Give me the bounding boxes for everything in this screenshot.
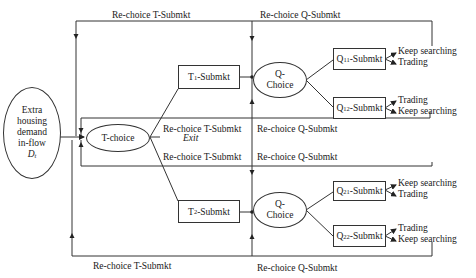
label-inner-bottom-rechoice-t: Re-choice T-Submkt — [163, 152, 241, 163]
q22-outcome-trading: Trading — [398, 223, 428, 234]
q-choice-node-2: Q- Choice — [253, 192, 307, 228]
source-line-1: Extra — [22, 105, 43, 116]
source-line-4: in-flow — [18, 138, 46, 149]
demand-inflow-node: Extra housing demand in-flow Dt — [3, 87, 61, 179]
t1-submarket-box: T1-Submkt — [178, 65, 240, 89]
q11-outcome-trading: Trading — [398, 57, 428, 68]
source-line-3: demand — [17, 127, 47, 138]
q22-outcome-keep-searching: Keep searching — [398, 234, 457, 245]
source-symbol: Dt — [28, 149, 37, 161]
t2-submarket-box: T2-Submkt — [178, 200, 240, 223]
label-inner-bottom-rechoice-q: Re-choice Q-Submkt — [257, 152, 337, 163]
t-choice-node: T-choice — [86, 124, 150, 152]
q12-outcome-trading: Trading — [398, 95, 428, 106]
q21-outcome-keep-searching: Keep searching — [398, 178, 457, 189]
source-line-2: housing — [17, 116, 47, 127]
q22-submarket-box: Q22-Submkt — [333, 225, 386, 247]
q11-outcome-keep-searching: Keep searching — [398, 46, 457, 57]
label-bottom-rechoice-q: Re-choice Q-Submkt — [257, 263, 337, 274]
q12-submarket-box: Q12-Submkt — [333, 97, 386, 119]
label-inner-top-rechoice-t: Re-choice T-Submkt — [163, 124, 241, 135]
label-bottom-rechoice-t: Re-choice T-Submkt — [93, 261, 171, 272]
q11-submarket-box: Q11-Submkt — [333, 48, 386, 70]
t-choice-label: T-choice — [102, 133, 135, 144]
label-top-rechoice-t: Re-choice T-Submkt — [112, 10, 190, 21]
q-choice-node-1: Q- Choice — [253, 62, 307, 98]
q21-submarket-box: Q21-Submkt — [333, 181, 386, 201]
label-top-rechoice-q: Re-choice Q-Submkt — [260, 10, 340, 21]
q21-outcome-trading: Trading — [398, 189, 428, 200]
q12-outcome-keep-searching: Keep searching — [398, 106, 457, 117]
label-inner-top-rechoice-q: Re-choice Q-Submkt — [257, 124, 337, 135]
label-exit: Exit — [183, 133, 198, 144]
